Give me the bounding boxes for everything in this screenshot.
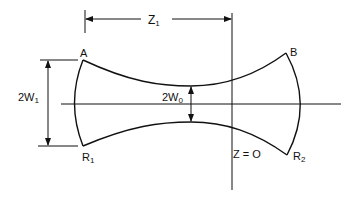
beam-diagram: A B R1 R2 2W1 2W0 Z1 Z = O bbox=[0, 0, 355, 200]
label-z-origin: Z = O bbox=[233, 149, 261, 160]
label-r2-sub: 2 bbox=[301, 155, 305, 164]
label-r1-sub: 1 bbox=[90, 156, 94, 165]
label-r2: R2 bbox=[293, 151, 305, 164]
label-z1: Z1 bbox=[148, 14, 160, 28]
label-2w1-main: 2W bbox=[18, 91, 35, 103]
label-z1-sub: 1 bbox=[155, 19, 159, 28]
label-2w0-sub: 0 bbox=[179, 96, 183, 105]
label-r1: R1 bbox=[82, 152, 94, 165]
label-r2-main: R bbox=[293, 150, 301, 162]
label-point-b: B bbox=[290, 47, 297, 58]
label-2w0-main: 2W bbox=[162, 91, 179, 103]
wavefront-r1 bbox=[75, 60, 84, 146]
label-2w1-sub: 1 bbox=[35, 96, 39, 105]
label-2w0: 2W0 bbox=[162, 92, 183, 105]
label-point-a: A bbox=[80, 48, 87, 59]
label-2w1: 2W1 bbox=[18, 92, 39, 105]
beam-upper-edge bbox=[83, 53, 286, 86]
label-r1-main: R bbox=[82, 151, 90, 163]
